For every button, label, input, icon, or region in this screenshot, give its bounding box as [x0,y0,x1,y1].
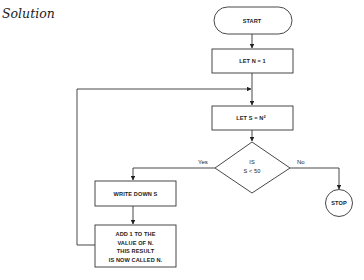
flowchart: START LET N = 1 LET S = N2 IS S < 50 Yes… [0,0,364,280]
add-label-line1: ADD 1 TO THE [116,231,156,237]
add-label-line4: IS NOW CALLED N. [109,257,163,263]
let-n-label: LET N = 1 [239,58,266,64]
decision-label-line2: S < 50 [244,168,261,174]
arrow-no-to-stop [290,168,339,189]
write-s-label: WRITE DOWN S [114,191,158,197]
no-branch-label: No [297,159,305,165]
let-s-label: LET S = N2 [236,114,266,122]
decision-label-line1: IS [249,159,255,165]
add-label-line2: VALUE OF N. [117,240,153,246]
arrow-yes-to-write [133,168,215,180]
add-label-line3: THIS RESULT [117,248,155,254]
yes-branch-label: Yes [198,159,208,165]
start-label: START [243,18,262,24]
stop-label: STOP [331,200,347,206]
